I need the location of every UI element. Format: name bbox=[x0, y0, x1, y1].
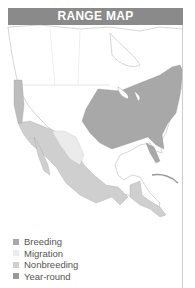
range-map-title: RANGE MAP bbox=[57, 9, 133, 23]
legend-item-nonbreeding: Nonbreeding bbox=[13, 259, 78, 271]
map-legend: Breeding Migration Nonbreeding Year-roun… bbox=[13, 236, 78, 282]
range-map bbox=[0, 25, 183, 220]
breeding-swatch-icon bbox=[13, 239, 19, 245]
west-coast-range bbox=[14, 80, 24, 123]
legend-item-migration: Migration bbox=[13, 248, 78, 260]
nonbreeding-swatch-icon bbox=[13, 262, 19, 268]
migration-swatch-icon bbox=[13, 250, 19, 256]
year-round-swatch-icon bbox=[13, 273, 19, 279]
legend-item-breeding: Breeding bbox=[13, 236, 78, 248]
legend-item-year-round: Year-round bbox=[13, 271, 78, 283]
map-frame-border bbox=[182, 25, 183, 288]
range-map-header: RANGE MAP bbox=[8, 8, 183, 25]
